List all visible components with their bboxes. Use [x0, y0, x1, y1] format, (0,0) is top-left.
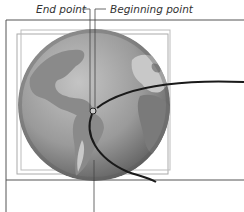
- diagram-canvas: End point Beginning point: [0, 0, 244, 212]
- illustration: [0, 0, 244, 212]
- globe-icon: [18, 29, 173, 181]
- anchor-point: [90, 108, 96, 114]
